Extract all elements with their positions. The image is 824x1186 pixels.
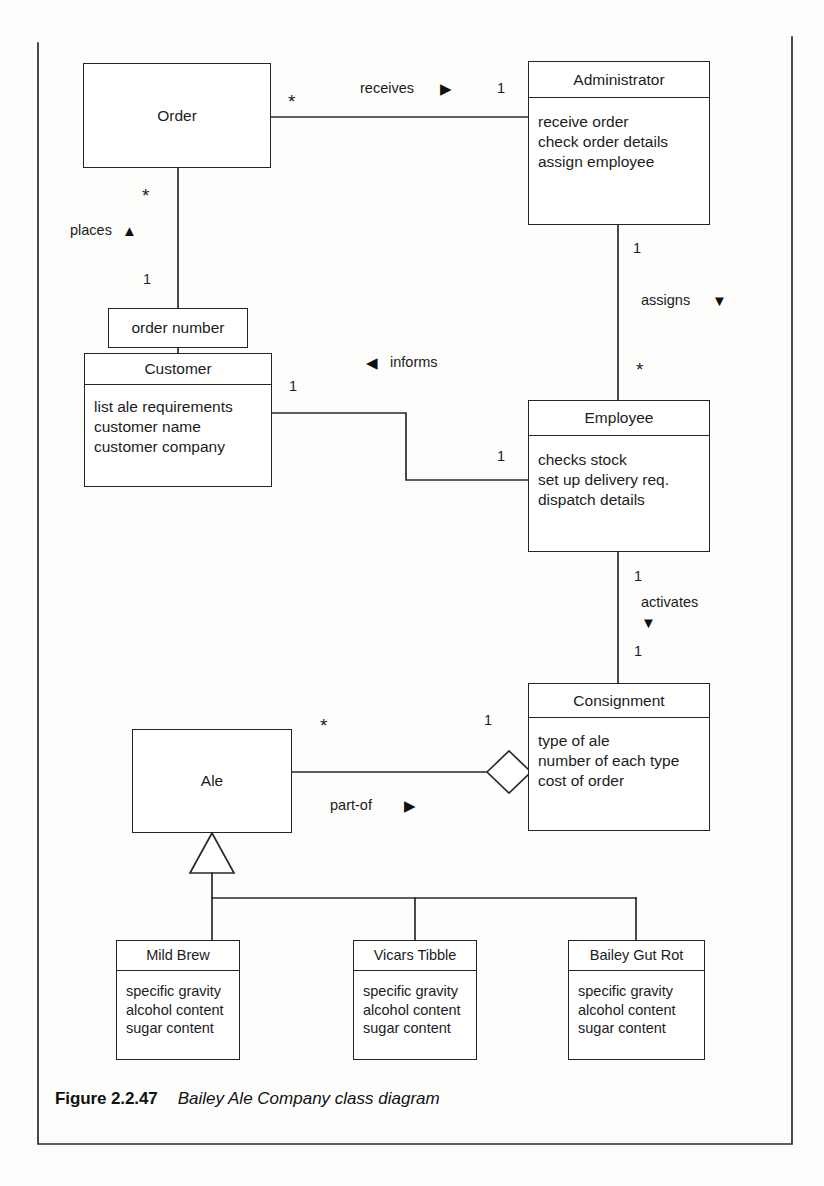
class-box-vicars-tibble[interactable]: Vicars Tibble specific gravity alcohol c… xyxy=(353,940,477,1060)
class-attributes-administrator: receive order check order details assign… xyxy=(529,97,709,172)
multiplicity-employee-up-star: * xyxy=(636,366,643,374)
left-triangle-icon: ◀ xyxy=(366,356,378,369)
class-name-vicars-tibble: Vicars Tibble xyxy=(354,941,476,970)
class-box-consignment[interactable]: Consignment type of ale number of each t… xyxy=(528,683,710,831)
multiplicity-customer-right-one: 1 xyxy=(289,378,297,394)
association-label-activates: activates xyxy=(641,594,698,610)
right-triangle-icon: ▶ xyxy=(404,799,416,812)
multiplicity-ale-right-star: * xyxy=(320,722,327,730)
attribute-item: sugar content xyxy=(578,1019,704,1038)
multiplicity-admin-down-one: 1 xyxy=(633,240,641,256)
attribute-item: checks stock xyxy=(538,450,709,470)
figure-number: Figure 2.2.47 xyxy=(55,1089,158,1108)
class-attributes-employee: checks stock set up delivery req. dispat… xyxy=(529,435,709,510)
figure-caption: Figure 2.2.47Bailey Ale Company class di… xyxy=(55,1089,440,1109)
association-label-receives: receives xyxy=(360,80,414,96)
attribute-item: list ale requirements xyxy=(94,397,271,417)
multiplicity-employee-down-one: 1 xyxy=(634,568,642,584)
attribute-item: customer name xyxy=(94,417,271,437)
multiplicity-order-to-admin: * xyxy=(288,98,295,106)
class-attributes-customer: list ale requirements customer name cust… xyxy=(85,384,271,457)
qualifier-label-order-number: order number xyxy=(131,319,224,337)
right-triangle-icon: ▶ xyxy=(440,82,452,95)
class-attributes-vicars-tibble: specific gravity alcohol content sugar c… xyxy=(354,970,476,1039)
association-label-assigns: assigns xyxy=(641,292,690,308)
multiplicity-consignment-left-one: 1 xyxy=(484,712,492,728)
multiplicity-employee-left-one: 1 xyxy=(497,448,505,464)
up-triangle-icon: ▲ xyxy=(122,224,137,237)
attribute-item: alcohol content xyxy=(578,1001,704,1020)
class-box-employee[interactable]: Employee checks stock set up delivery re… xyxy=(528,400,710,552)
class-name-bailey-gut-rot: Bailey Gut Rot xyxy=(569,941,704,970)
attribute-item: customer company xyxy=(94,437,271,457)
multiplicity-order-down-star: * xyxy=(142,192,149,200)
class-name-mild-brew: Mild Brew xyxy=(117,941,239,970)
attribute-item: sugar content xyxy=(363,1019,476,1038)
class-box-bailey-gut-rot[interactable]: Bailey Gut Rot specific gravity alcohol … xyxy=(568,940,705,1060)
multiplicity-admin-one: 1 xyxy=(497,80,505,96)
association-label-part-of: part-of xyxy=(330,797,372,813)
generalization-triangle xyxy=(190,833,234,873)
attribute-item: alcohol content xyxy=(126,1001,239,1020)
attribute-item: cost of order xyxy=(538,771,709,791)
attribute-item: specific gravity xyxy=(363,982,476,1001)
qualifier-box-order-number[interactable]: order number xyxy=(108,308,248,348)
class-box-administrator[interactable]: Administrator receive order check order … xyxy=(528,61,710,225)
multiplicity-consignment-up-one: 1 xyxy=(634,643,642,659)
class-name-consignment: Consignment xyxy=(529,684,709,717)
class-box-order[interactable]: Order xyxy=(83,63,271,168)
figure-title: Bailey Ale Company class diagram xyxy=(178,1089,440,1108)
class-attributes-mild-brew: specific gravity alcohol content sugar c… xyxy=(117,970,239,1039)
class-name-order: Order xyxy=(157,107,197,125)
association-label-informs: informs xyxy=(390,354,438,370)
attribute-item: set up delivery req. xyxy=(538,470,709,490)
attribute-item: receive order xyxy=(538,112,709,132)
class-name-administrator: Administrator xyxy=(529,62,709,97)
class-attributes-bailey-gut-rot: specific gravity alcohol content sugar c… xyxy=(569,970,704,1039)
down-triangle-icon: ▼ xyxy=(641,616,656,629)
aggregation-diamond xyxy=(487,751,531,793)
attribute-item: specific gravity xyxy=(578,982,704,1001)
attribute-item: sugar content xyxy=(126,1019,239,1038)
class-name-customer: Customer xyxy=(85,354,271,384)
class-name-ale: Ale xyxy=(201,772,223,790)
class-box-mild-brew[interactable]: Mild Brew specific gravity alcohol conte… xyxy=(116,940,240,1060)
multiplicity-customer-one: 1 xyxy=(143,271,151,287)
assoc-customer-employee xyxy=(272,413,528,480)
attribute-item: type of ale xyxy=(538,731,709,751)
class-box-customer[interactable]: Customer list ale requirements customer … xyxy=(84,353,272,487)
attribute-item: alcohol content xyxy=(363,1001,476,1020)
class-name-employee: Employee xyxy=(529,401,709,435)
figure-page: Order Administrator receive order check … xyxy=(0,0,824,1186)
cut-off-header-text xyxy=(430,0,436,2)
attribute-item: check order details xyxy=(538,132,709,152)
association-label-places: places xyxy=(70,222,112,238)
attribute-item: specific gravity xyxy=(126,982,239,1001)
class-box-ale[interactable]: Ale xyxy=(132,729,292,833)
class-attributes-consignment: type of ale number of each type cost of … xyxy=(529,717,709,791)
attribute-item: dispatch details xyxy=(538,490,709,510)
attribute-item: number of each type xyxy=(538,751,709,771)
down-triangle-icon: ▼ xyxy=(712,294,727,307)
attribute-item: assign employee xyxy=(538,152,709,172)
